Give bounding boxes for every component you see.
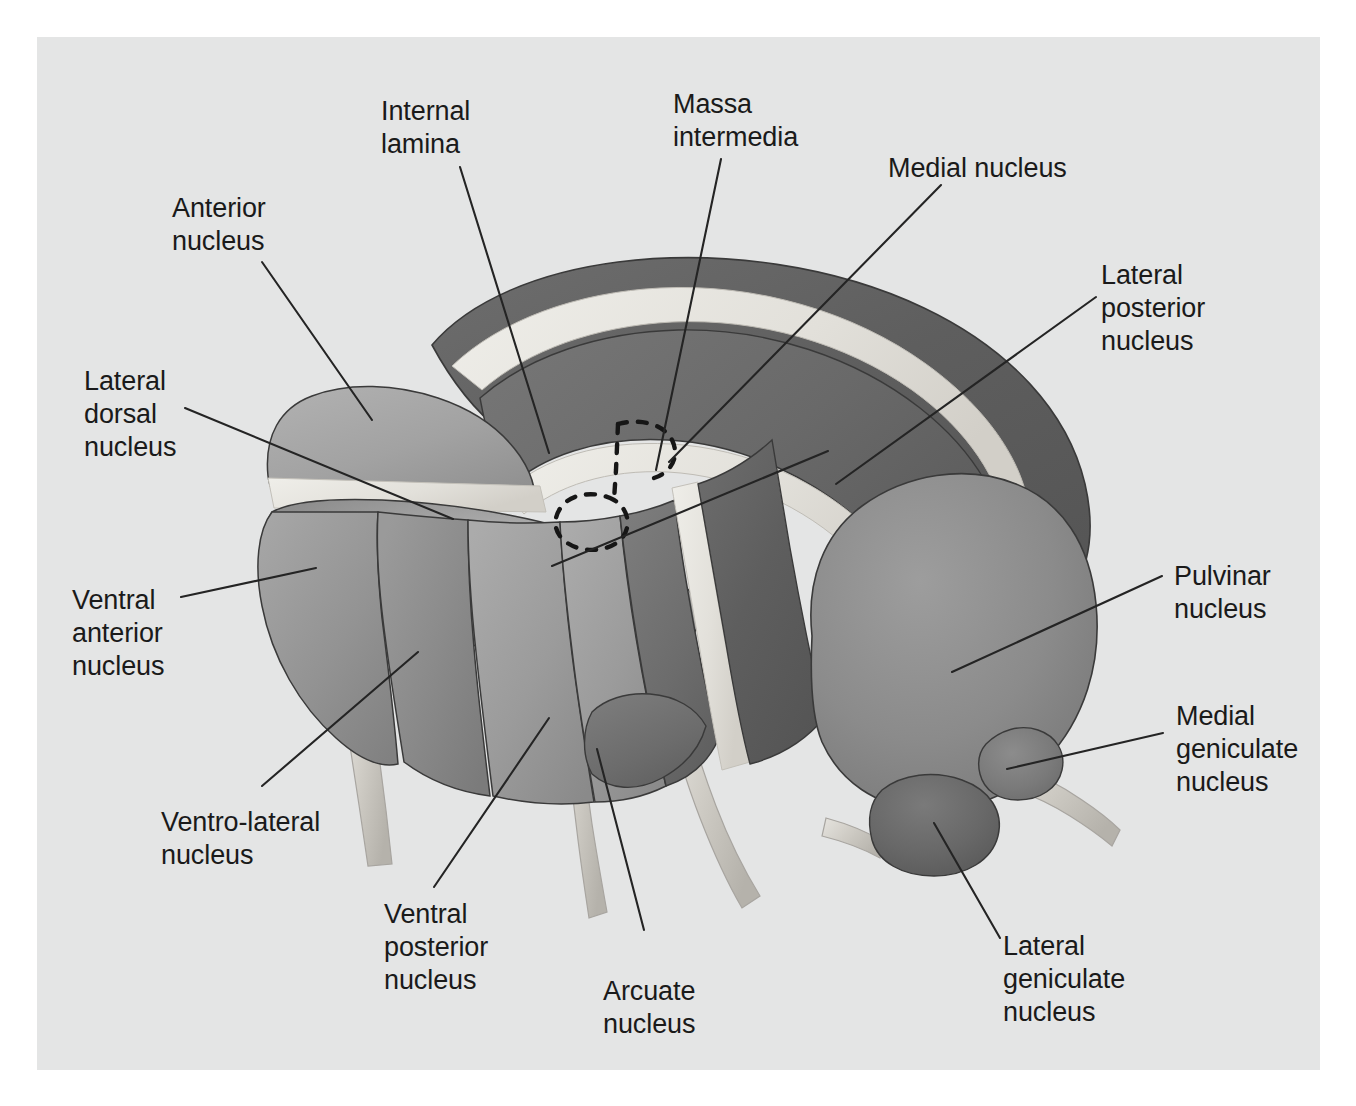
label-medial-geniculate-nucleus: Medial geniculate nucleus [1176, 700, 1298, 799]
label-pulvinar-nucleus: Pulvinar nucleus [1174, 560, 1271, 626]
label-internal-lamina: Internal lamina [381, 95, 470, 161]
label-arcuate-nucleus: Arcuate nucleus [603, 975, 695, 1041]
label-medial-nucleus: Medial nucleus [888, 152, 1067, 185]
label-ventral-anterior-nucleus: Ventral anterior nucleus [72, 584, 164, 683]
label-massa-intermedia: Massa intermedia [673, 88, 798, 154]
label-lateral-posterior-nucleus: Lateral posterior nucleus [1101, 259, 1205, 358]
medial-geniculate-body [979, 728, 1063, 800]
label-ventral-posterior-nucleus: Ventral posterior nucleus [384, 898, 488, 997]
thalamus-illustration [0, 0, 1356, 1106]
thalamus-figure: Anterior nucleus Internal lamina Massa i… [0, 0, 1356, 1106]
label-ventro-lateral-nucleus: Ventro-lateral nucleus [161, 806, 320, 872]
label-lateral-dorsal-nucleus: Lateral dorsal nucleus [84, 365, 176, 464]
label-anterior-nucleus: Anterior nucleus [172, 192, 266, 258]
label-lateral-geniculate-nucleus: Lateral geniculate nucleus [1003, 930, 1125, 1029]
